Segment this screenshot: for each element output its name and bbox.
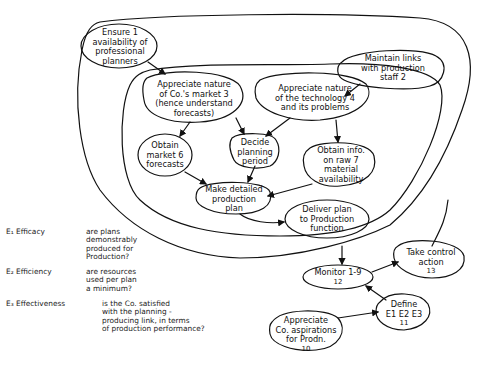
- node-10-line-3: for Prodn.: [270, 335, 342, 345]
- node-ensure-planners: Ensure 1 availability of professional pl…: [82, 28, 158, 66]
- node-appreciate-technology: Appreciate nature of the technology 4 an…: [262, 84, 368, 113]
- question-line: Production?: [86, 253, 137, 261]
- criteria-question: is the Co. satisfied with the planning -…: [102, 300, 205, 334]
- node-5-line-3: period: [230, 157, 280, 167]
- node-8-line-3: plan: [196, 204, 272, 214]
- node-7-line-4: availability: [306, 175, 376, 185]
- criteria-efficiency: E₂ Efficiency are resources used per pla…: [6, 268, 166, 296]
- criteria-efficacy: E₁ Efficacy are plans demonstrably produ…: [6, 228, 166, 264]
- node-9-line-3: function: [288, 224, 366, 234]
- criteria-question: are resources used per plan a minimum?: [86, 268, 137, 293]
- node-12-line-1: Monitor 1-9: [304, 268, 372, 278]
- node-12-number: 12: [304, 278, 372, 288]
- node-make-detailed-plan: Make detailed production plan: [196, 185, 272, 214]
- criteria-question: are plans demonstrably produced for Prod…: [86, 228, 137, 262]
- node-11-line-2: E1 E2 E3: [378, 310, 430, 320]
- node-decide-planning-period: Decide planning period: [230, 138, 280, 167]
- node-maintain-links: Maintain links with production staff 2: [344, 54, 442, 83]
- node-monitor: Monitor 1-9 12: [304, 268, 372, 287]
- node-define-criteria: Define E1 E2 E3 11: [378, 300, 430, 329]
- node-2-line-3: staff 2: [344, 73, 442, 83]
- question-line: a minimum?: [86, 285, 137, 293]
- criteria-code: E₃ Effectiveness: [6, 300, 86, 308]
- node-take-control-action: Take control action 13: [396, 248, 466, 277]
- node-obtain-market-forecasts: Obtain market 6 forecasts: [140, 141, 190, 170]
- criteria-effectiveness: E₃ Effectiveness is the Co. satisfied wi…: [6, 300, 236, 336]
- node-1-line-4: planners: [82, 57, 158, 67]
- node-4-line-3: and its problems: [262, 103, 368, 113]
- node-13-number: 13: [396, 267, 466, 277]
- question-line: of production performance?: [102, 325, 205, 333]
- node-10-number: 10: [270, 345, 342, 355]
- node-appreciate-market: Appreciate nature of Co.'s market 3 (hen…: [146, 80, 242, 118]
- node-6-line-3: forecasts: [140, 160, 190, 170]
- node-appreciate-aspirations: Appreciate Co. aspirations for Prodn. 10: [270, 316, 342, 354]
- node-obtain-raw-material-info: Obtain info. on raw 7 material availabil…: [306, 146, 376, 184]
- criteria-code: E₂ Efficiency: [6, 268, 86, 276]
- criteria-code: E₁ Efficacy: [6, 228, 86, 236]
- node-3-line-4: forecasts): [146, 109, 242, 119]
- node-11-number: 11: [378, 319, 430, 329]
- node-13-line-2: action: [396, 258, 466, 268]
- node-deliver-plan: Deliver plan to Production function: [288, 205, 366, 234]
